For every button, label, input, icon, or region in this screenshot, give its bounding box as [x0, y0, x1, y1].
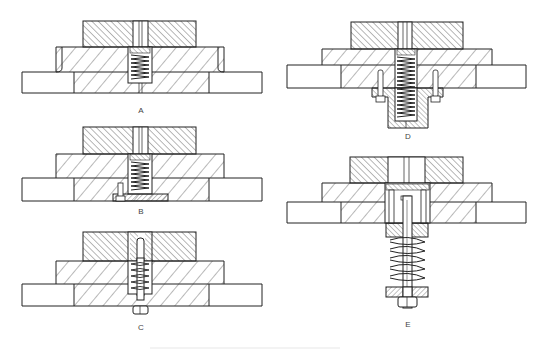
panel-c	[22, 232, 262, 314]
panel-label-d: D	[405, 133, 411, 141]
panel-d	[287, 22, 526, 128]
panel-a	[22, 21, 262, 93]
panel-label-a: A	[138, 107, 143, 115]
faint-caption-line	[150, 347, 340, 349]
panel-label-b: B	[138, 208, 143, 216]
panel-b	[22, 127, 262, 201]
panel-label-c: C	[138, 324, 144, 332]
panel-e	[287, 157, 526, 308]
diagram-canvas	[0, 0, 545, 354]
panel-label-e: E	[405, 321, 410, 329]
